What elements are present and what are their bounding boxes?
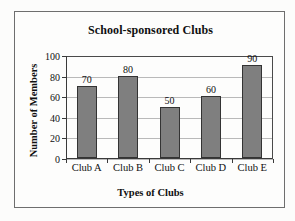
- x-axis-tick: [190, 159, 191, 163]
- page-background: School-sponsored Clubs Number of Members…: [0, 0, 295, 221]
- y-axis-line: [66, 56, 67, 159]
- bar: [118, 76, 138, 158]
- bar: [201, 96, 221, 158]
- x-axis-tick: [273, 159, 274, 163]
- y-axis-tick-label: 20: [50, 133, 60, 144]
- gridline: [66, 159, 273, 160]
- plot-right-border: [272, 56, 273, 159]
- y-axis-tick-label: 40: [50, 112, 60, 123]
- chart-title: School-sponsored Clubs: [15, 23, 286, 38]
- bar-value-label: 70: [82, 74, 92, 85]
- y-axis-tick-label: 60: [50, 92, 60, 103]
- y-axis-tick-label: 100: [45, 51, 60, 62]
- bar: [242, 65, 262, 158]
- y-axis-title: Number of Members: [28, 56, 39, 166]
- x-axis-category-label: Club C: [154, 162, 184, 173]
- y-axis-tick-label: 80: [50, 71, 60, 82]
- chart-frame: School-sponsored Clubs Number of Members…: [14, 11, 285, 208]
- bar: [160, 107, 180, 159]
- x-axis-title: Types of Clubs: [15, 187, 286, 198]
- plot-area: 020406080100 7080506090 Club AClub BClub…: [66, 56, 273, 159]
- y-axis-tick-label: 0: [55, 154, 60, 165]
- bar-value-label: 90: [247, 53, 257, 64]
- x-axis-category-label: Club B: [113, 162, 143, 173]
- x-axis-category-label: Club D: [196, 162, 227, 173]
- x-axis-category-label: Club A: [72, 162, 102, 173]
- x-axis-category-label: Club E: [238, 162, 267, 173]
- bar: [77, 86, 97, 158]
- x-axis-tick: [66, 159, 67, 163]
- bar-value-label: 60: [206, 84, 216, 95]
- bar-value-label: 80: [123, 64, 133, 75]
- x-axis-tick: [107, 159, 108, 163]
- x-axis-tick: [232, 159, 233, 163]
- x-axis-tick: [149, 159, 150, 163]
- x-axis-line: [66, 158, 273, 159]
- bar-value-label: 50: [165, 95, 175, 106]
- gridline: [66, 56, 273, 57]
